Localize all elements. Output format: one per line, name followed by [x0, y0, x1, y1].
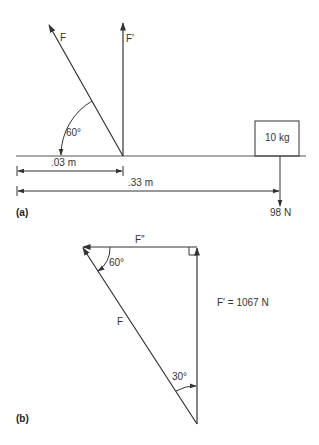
- force-diagram: F F′ 60° 10 kg .03 m .33 m 98 N (a) F″ 6…: [0, 0, 319, 445]
- mass-label: 10 kg: [265, 133, 289, 143]
- force-F-arrow: [49, 25, 123, 156]
- force-F-arrow-b: [83, 248, 197, 424]
- result-label: F′ = 1067 N: [217, 298, 269, 308]
- figure-a: [16, 23, 306, 206]
- force-Fprime-label: F′: [126, 34, 134, 44]
- force-Fdoubleprime-label: F″: [135, 235, 145, 245]
- diagram-canvas: [0, 0, 319, 445]
- weight-label: 98 N: [270, 208, 291, 218]
- panel-a-label: (a): [16, 208, 28, 218]
- dim-short-label: .03 m: [51, 158, 76, 168]
- angle-30-b-label: 30°: [172, 372, 187, 382]
- angle-60-label: 60°: [66, 128, 81, 138]
- figure-b: [83, 247, 197, 424]
- panel-b-label: (b): [16, 414, 29, 424]
- angle-60-b-label: 60°: [109, 258, 124, 268]
- force-F-b-label: F: [117, 317, 123, 327]
- angle-arc-30-b: [176, 386, 196, 391]
- dim-long-label: .33 m: [128, 178, 153, 188]
- force-F-label: F: [60, 33, 66, 43]
- right-angle-marker: [189, 247, 197, 255]
